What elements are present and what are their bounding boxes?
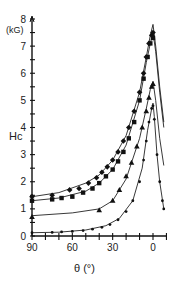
y-tick-label: 2 xyxy=(20,176,26,187)
triangle-marker-icon xyxy=(117,187,123,192)
data-markers xyxy=(29,30,165,234)
square-marker-icon xyxy=(90,186,94,190)
square-marker-icon xyxy=(121,150,125,154)
y-tick-label: 5 xyxy=(20,95,26,106)
dot-marker-icon xyxy=(71,230,74,233)
square-marker-icon xyxy=(132,120,136,124)
y-axis-title: Hc xyxy=(9,130,23,142)
y-axis-unit: (kG) xyxy=(6,25,24,35)
diamond-marker-icon xyxy=(141,70,147,76)
axes: 0123456789060300 xyxy=(20,14,166,254)
triangle-marker-icon xyxy=(110,198,116,203)
y-tick-label: 8 xyxy=(20,14,26,25)
y-tick-label: 1 xyxy=(20,203,26,214)
dot-marker-icon xyxy=(161,199,164,202)
square-marker-icon xyxy=(81,190,85,194)
dot-marker-icon xyxy=(162,207,165,210)
dot-marker-icon xyxy=(158,180,161,183)
dot-marker-icon xyxy=(156,153,159,156)
x-tick-label: 30 xyxy=(107,242,119,253)
dot-marker-icon xyxy=(31,231,34,234)
square-marker-icon xyxy=(110,167,114,171)
dot-marker-icon xyxy=(148,121,151,124)
y-tick-label: 3 xyxy=(20,149,26,160)
dot-marker-icon xyxy=(142,159,145,162)
diamond-marker-icon xyxy=(86,180,92,186)
dot-marker-icon xyxy=(145,140,148,143)
dot-marker-icon xyxy=(101,226,104,229)
fit-curve xyxy=(32,24,164,196)
triangle-marker-icon xyxy=(146,95,152,100)
y-tick-label: 0 xyxy=(20,231,26,242)
y-tick-label: 7 xyxy=(20,41,26,52)
x-tick-label: 90 xyxy=(26,242,38,253)
square-marker-icon xyxy=(148,41,152,45)
dot-marker-icon xyxy=(51,231,54,234)
dot-marker-icon xyxy=(152,104,155,107)
square-marker-icon xyxy=(97,181,101,185)
x-tick-label: 60 xyxy=(67,242,79,253)
dot-marker-icon xyxy=(109,223,112,226)
triangle-marker-icon xyxy=(150,81,156,86)
square-marker-icon xyxy=(30,199,34,203)
dot-marker-icon xyxy=(131,199,134,202)
triangle-marker-icon xyxy=(143,108,149,113)
square-marker-icon xyxy=(116,159,120,163)
square-marker-icon xyxy=(151,36,155,40)
x-tick-label: 0 xyxy=(150,242,156,253)
square-marker-icon xyxy=(104,174,108,178)
square-marker-icon xyxy=(70,194,74,198)
triangle-marker-icon xyxy=(129,160,135,165)
square-marker-icon xyxy=(137,98,141,102)
dot-marker-icon xyxy=(138,180,141,183)
dot-marker-icon xyxy=(91,228,94,231)
square-marker-icon xyxy=(145,55,149,59)
triangle-marker-icon xyxy=(29,214,35,219)
fit-curve xyxy=(32,103,164,233)
dot-marker-icon xyxy=(82,229,85,232)
square-marker-icon xyxy=(127,136,131,140)
dot-marker-icon xyxy=(150,107,153,110)
dot-marker-icon xyxy=(60,231,63,234)
y-tick-label: 6 xyxy=(20,68,26,79)
triangle-marker-icon xyxy=(139,125,145,130)
dot-marker-icon xyxy=(117,218,120,221)
square-marker-icon xyxy=(50,197,54,201)
triangle-marker-icon xyxy=(134,143,140,148)
x-axis-title: θ (°) xyxy=(74,262,95,274)
square-marker-icon xyxy=(141,76,145,80)
square-marker-icon xyxy=(59,196,63,200)
coercivity-vs-angle-chart: 0123456789060300 Hc (kG) θ (°) xyxy=(0,0,179,289)
dot-marker-icon xyxy=(153,118,156,121)
diamond-marker-icon xyxy=(121,138,127,144)
dot-marker-icon xyxy=(125,210,128,213)
